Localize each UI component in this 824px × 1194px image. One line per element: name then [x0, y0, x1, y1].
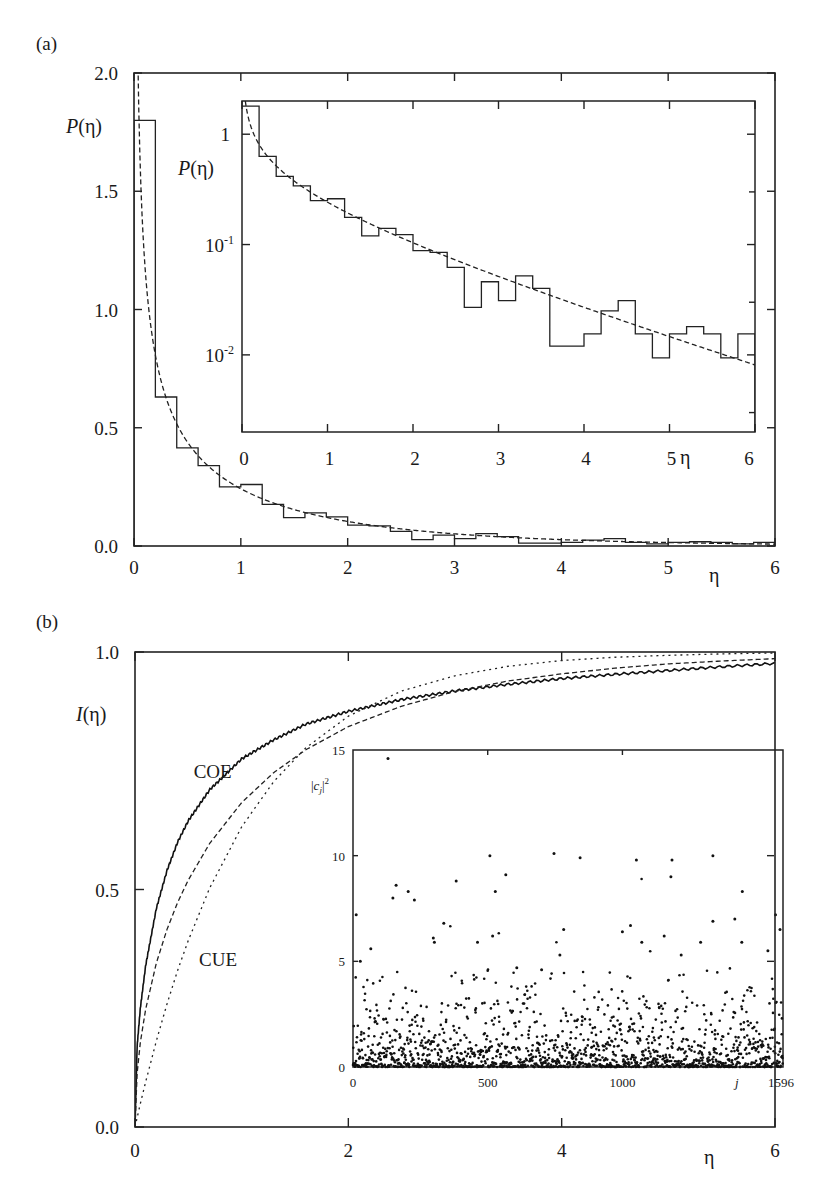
scatter-point — [555, 941, 558, 944]
scatter-point — [735, 1040, 738, 1043]
scatter-point — [748, 1052, 751, 1055]
scatter-point — [746, 1034, 749, 1037]
scatter-point — [506, 1061, 509, 1064]
scatter-point — [608, 1037, 611, 1040]
scatter-point — [376, 1009, 379, 1012]
scatter-point — [425, 1006, 428, 1009]
scatter-point — [640, 1017, 643, 1020]
scatter-point — [519, 1061, 522, 1064]
scatter-point — [472, 974, 475, 977]
scatter-point — [601, 998, 604, 1001]
scatter-point-outlier — [494, 890, 497, 893]
scatter-point — [403, 1043, 406, 1046]
scatter-point — [497, 1049, 500, 1052]
scatter-point — [710, 1013, 713, 1016]
scatter-point — [392, 993, 395, 996]
scatter-point — [759, 1039, 762, 1042]
scatter-point — [414, 1016, 417, 1019]
scatter-point — [531, 1059, 534, 1062]
scatter-point — [597, 1006, 600, 1009]
scatter-point — [475, 1044, 478, 1047]
scatter-point — [655, 1018, 658, 1021]
scatter-point-outlier — [699, 941, 702, 944]
scatter-point — [542, 1056, 545, 1059]
scatter-point — [510, 1063, 513, 1066]
scatter-point — [612, 1016, 615, 1019]
scatter-point — [530, 1053, 533, 1056]
scatter-point — [450, 1058, 453, 1061]
scatter-point — [441, 1028, 444, 1031]
scatter-point — [639, 1062, 642, 1065]
scatter-point — [486, 1058, 489, 1061]
scatter-point — [703, 1041, 706, 1044]
scatter-point — [745, 1011, 748, 1014]
scatter-point — [372, 1060, 375, 1063]
scatter-point — [778, 1042, 781, 1045]
scatter-point — [722, 1035, 725, 1038]
scatter-point — [378, 1055, 381, 1058]
scatter-point — [636, 1061, 639, 1064]
scatter-point — [691, 1001, 694, 1004]
scatter-point — [538, 1052, 541, 1055]
scatter-point — [420, 1064, 423, 1067]
scatter-point — [500, 1053, 503, 1056]
scatter-point — [638, 998, 641, 1001]
scatter-point — [589, 1065, 592, 1068]
scatter-point — [703, 1004, 706, 1007]
scatter-point — [725, 991, 728, 994]
scatter-point — [653, 1036, 656, 1039]
scatter-point — [544, 1062, 547, 1065]
scatter-point — [610, 988, 613, 991]
scatter-point — [626, 1042, 629, 1045]
scatter-point — [465, 1036, 468, 1039]
scatter-point — [547, 1053, 550, 1056]
scatter-point — [644, 1003, 647, 1006]
scatter-point — [573, 990, 576, 993]
scatter-point — [503, 1028, 506, 1031]
scatter-point — [732, 1016, 735, 1019]
scatter-point — [705, 1019, 708, 1022]
scatter-point — [657, 1061, 660, 1064]
scatter-point — [412, 1033, 415, 1036]
scatter-point — [642, 1026, 645, 1029]
scatter-point — [778, 1061, 781, 1064]
scatter-point — [388, 1007, 391, 1010]
scatter-point — [493, 1017, 496, 1020]
scatter-point — [394, 1039, 397, 1042]
scatter-point — [402, 1065, 405, 1068]
y-tick-label: 1.0 — [94, 300, 118, 321]
scatter-point — [518, 1020, 521, 1023]
scatter-point — [639, 1039, 642, 1042]
scatter-point — [772, 988, 775, 991]
scatter-point — [645, 1006, 648, 1009]
scatter-point — [385, 1050, 388, 1053]
annotation-coe: COE — [194, 761, 232, 782]
scatter-point — [651, 1030, 654, 1033]
scatter-point — [678, 974, 681, 977]
scatter-point — [625, 1055, 628, 1058]
y-tick-label: 0.5 — [95, 880, 119, 901]
scatter-point — [482, 1064, 485, 1067]
scatter-point — [606, 1058, 609, 1061]
scatter-point — [684, 1050, 687, 1053]
scatter-point — [530, 985, 533, 988]
scatter-point — [405, 1059, 408, 1062]
scatter-point — [406, 1011, 409, 1014]
scatter-point-outlier — [433, 941, 436, 944]
scatter-point — [360, 1031, 363, 1034]
scatter-point — [592, 1040, 595, 1043]
scatter-point — [518, 1048, 521, 1051]
y-tick-label: 0.0 — [94, 536, 118, 557]
scatter-point — [373, 1035, 376, 1038]
scatter-point — [621, 990, 624, 993]
scatter-point — [746, 989, 749, 992]
scatter-point-outlier — [387, 757, 390, 760]
x-tick-label: 2 — [344, 1140, 354, 1161]
scatter-point — [450, 1049, 453, 1052]
scatter-point — [367, 1035, 370, 1038]
scatter-point — [557, 1036, 560, 1039]
scatter-point — [595, 1048, 598, 1051]
scatter-point — [656, 1051, 659, 1054]
scatter-point — [420, 1005, 423, 1008]
scatter-point — [574, 1062, 577, 1065]
